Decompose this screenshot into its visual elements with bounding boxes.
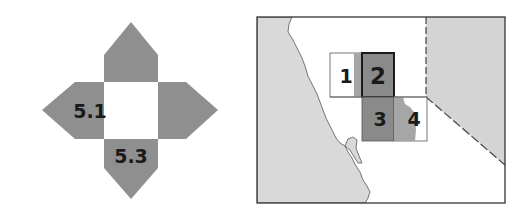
compass-label-left: 5.1 <box>73 100 107 122</box>
figure-canvas: 5.1 5.3 1 2 3 <box>0 0 530 222</box>
map: 1 2 3 4 <box>257 17 505 203</box>
grid-cell-1-shade <box>354 53 362 97</box>
compass-diagram: 5.1 5.3 <box>42 22 218 199</box>
compass-center <box>104 82 158 139</box>
compass-label-bottom: 5.3 <box>114 145 148 167</box>
compass-arm-top <box>104 22 158 82</box>
grid-label-4: 4 <box>407 108 420 130</box>
grid-label-2: 2 <box>370 63 386 89</box>
compass-arm-right <box>158 82 218 139</box>
grid-label-3: 3 <box>373 108 386 130</box>
grid-label-1: 1 <box>339 65 352 87</box>
